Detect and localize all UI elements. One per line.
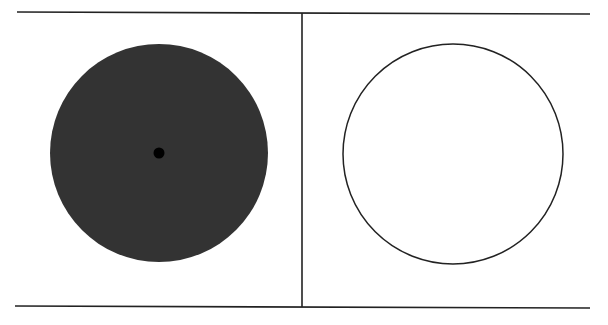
diagram-canvas (0, 0, 608, 325)
right-panel (343, 44, 563, 264)
center-dot (154, 148, 165, 159)
top-frame-line (17, 12, 590, 14)
left-panel (50, 44, 268, 262)
circle-outline (343, 44, 563, 264)
